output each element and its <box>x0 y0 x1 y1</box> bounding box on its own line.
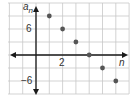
data-point <box>47 14 52 19</box>
data-point <box>100 66 105 71</box>
y-axis-label-sub: n <box>29 6 33 15</box>
x-axis-label: n <box>119 58 125 68</box>
y-tick-neg6: −6 <box>21 76 32 86</box>
data-point <box>60 27 65 32</box>
data-points <box>47 14 118 84</box>
data-point <box>113 79 118 84</box>
x-axis-left-arrow-icon <box>10 52 16 58</box>
data-point <box>74 40 79 45</box>
y-tick-6: 6 <box>26 24 32 34</box>
y-axis-label: an <box>23 2 33 16</box>
data-point <box>87 53 92 58</box>
x-tick-2: 2 <box>59 58 65 68</box>
y-axis-up-arrow-icon <box>33 6 39 12</box>
